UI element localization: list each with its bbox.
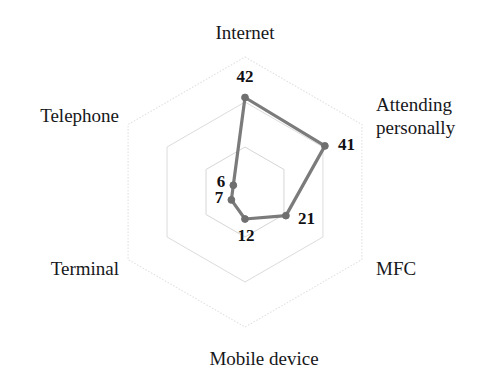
axis-label-telephone: Telephone (40, 105, 119, 126)
axis-label-mobile-device: Mobile device (209, 348, 318, 369)
value-label-internet: 42 (237, 67, 254, 86)
radar-chart-canvas: 42 41 21 12 7 6 Internet Attending perso… (0, 0, 486, 389)
axis-label-attending-personally-line1: Attending (376, 94, 452, 115)
radar-chart: 42 41 21 12 7 6 Internet Attending perso… (0, 0, 486, 389)
data-point-terminal (228, 196, 235, 203)
data-point-telephone (230, 182, 237, 189)
axis-label-internet: Internet (215, 22, 275, 43)
data-point-attending-personally (321, 142, 328, 149)
data-point-mobile-device (242, 216, 249, 223)
value-label-telephone: 6 (217, 172, 226, 191)
axis-label-mfc: MFC (376, 258, 416, 279)
value-label-mfc: 21 (298, 209, 315, 228)
value-label-mobile-device: 12 (238, 226, 255, 245)
data-point-internet (242, 94, 249, 101)
data-point-mfc (283, 212, 290, 219)
axis-label-terminal: Terminal (51, 258, 119, 279)
axis-label-attending-personally-line2: personally (376, 117, 456, 138)
value-label-attending-personally: 41 (338, 135, 355, 154)
